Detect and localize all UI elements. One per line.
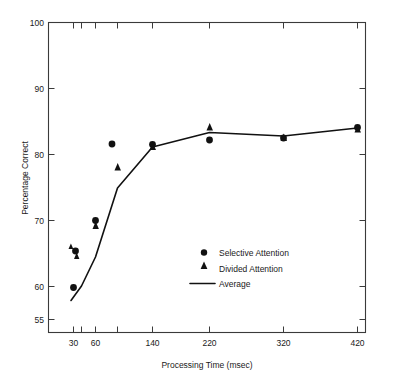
legend-label-selective-attention: Selective Attention	[219, 248, 289, 258]
y-axis-ticks-right	[360, 23, 366, 320]
x-tick-label-220: 220	[202, 338, 216, 348]
legend-label-average: Average	[219, 279, 251, 289]
x-tick-label-320: 320	[276, 338, 290, 348]
average-line	[71, 128, 358, 301]
x-axis-tick-labels: 30 60 140 220 320 420	[69, 338, 365, 348]
plot-frame	[49, 23, 366, 333]
chart-legend: Selective Attention Divided Attention Av…	[190, 248, 289, 290]
y-axis-tick-labels: 100 90 80 70 60 55	[30, 18, 44, 325]
data-point-circle	[206, 137, 213, 144]
data-point-circle	[109, 141, 116, 148]
x-tick-label-60: 60	[91, 338, 101, 348]
x-axis-ticks-top	[74, 23, 358, 29]
y-axis-title: Percentage Correct	[20, 141, 30, 215]
legend-marker-triangle-icon	[201, 262, 208, 270]
chart-figure: 100 90 80 70 60 55	[0, 0, 409, 384]
data-point-triangle	[115, 163, 122, 171]
y-tick-label-90: 90	[35, 84, 45, 94]
legend-label-divided-attention: Divided Attention	[219, 264, 283, 274]
y-tick-label-60: 60	[35, 282, 45, 292]
x-axis-title: Processing Time (msec)	[161, 360, 252, 370]
series-selective-attention	[70, 124, 361, 291]
x-tick-label-420: 420	[350, 338, 364, 348]
data-point-triangle	[207, 123, 214, 131]
chart-canvas: 100 90 80 70 60 55	[0, 0, 409, 384]
data-point-circle	[70, 284, 77, 291]
x-tick-label-30: 30	[69, 338, 79, 348]
x-axis-ticks	[74, 327, 358, 333]
y-tick-label-70: 70	[35, 216, 45, 226]
x-tick-label-140: 140	[145, 338, 159, 348]
legend-marker-circle-icon	[201, 249, 207, 255]
y-axis-ticks	[49, 23, 55, 320]
y-tick-label-80: 80	[35, 150, 45, 160]
y-tick-label-55: 55	[35, 315, 45, 325]
y-tick-label-100: 100	[30, 18, 44, 28]
data-point-triangle	[69, 244, 74, 250]
